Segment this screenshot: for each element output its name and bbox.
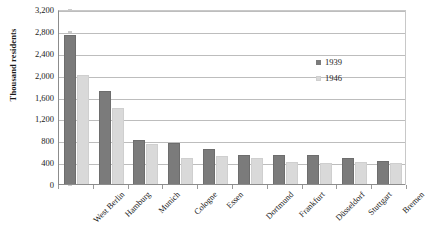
x-axis-category-label: Hamburg (124, 190, 153, 219)
bar (146, 144, 158, 185)
x-axis-tick-mark (93, 185, 94, 189)
x-axis-tick-mark (58, 185, 59, 189)
y-axis-tick-label: 1,200 (14, 115, 54, 124)
x-axis-tick-mark (162, 185, 163, 189)
bar (390, 163, 402, 185)
bar (133, 140, 145, 185)
x-axis-tick-mark (336, 185, 337, 189)
x-axis-category-label: Frankfurt (298, 190, 327, 219)
bar (251, 158, 263, 185)
x-axis-tick-mark (406, 185, 407, 189)
bar (342, 158, 354, 185)
y-axis-tick-label: 2,400 (14, 50, 54, 59)
bar (203, 149, 215, 185)
x-axis-tick-mark (302, 185, 303, 189)
x-axis-category-label: Bremen (401, 190, 426, 215)
bar-group (163, 11, 198, 185)
x-axis-category-label: West Berlin (91, 190, 125, 224)
bar (307, 155, 319, 185)
x-axis-category-label: Dortmund (264, 190, 295, 221)
bar (112, 108, 124, 185)
bar-group (129, 11, 164, 185)
bar (181, 158, 193, 185)
bar (286, 162, 298, 185)
y-axis-tick-label: 0 (14, 181, 54, 190)
legend-swatch-icon-1946 (316, 76, 321, 81)
x-axis-category-label: Cologne (192, 190, 218, 216)
bar-group (372, 11, 407, 185)
x-axis-category-label: Munich (157, 190, 182, 215)
bar (64, 35, 76, 185)
bar-group (337, 11, 372, 185)
y-axis-tick-label: 3,200 (14, 6, 54, 15)
bar (273, 155, 285, 185)
chart-legend: 1939 1946 (316, 54, 386, 86)
y-axis-tick-label: 400 (14, 159, 54, 168)
x-axis-category-label: Essen (225, 190, 245, 210)
legend-item-1939: 1939 (316, 54, 386, 70)
plot-area (58, 10, 406, 185)
x-axis-tick-mark (371, 185, 372, 189)
bar (238, 155, 250, 185)
bar-group (59, 11, 94, 185)
x-axis-category-label: Stuttgart (367, 190, 394, 217)
y-axis-tick-labels: 3,2002,8002,4002,0001,6001,2008004000 (14, 0, 54, 185)
y-axis-tick-label: 1,600 (14, 93, 54, 102)
bar-group (303, 11, 338, 185)
bar-group (233, 11, 268, 185)
bar-group (198, 11, 233, 185)
bar (77, 75, 89, 185)
x-axis-tick-mark (128, 185, 129, 189)
y-axis-tick-label: 800 (14, 137, 54, 146)
y-axis-tick-label: 2,000 (14, 71, 54, 80)
legend-label-1939: 1939 (325, 58, 342, 67)
x-axis-category-labels: West BerlinHamburgMunichCologneEssenDort… (58, 190, 406, 245)
bar (216, 156, 228, 185)
x-axis-tick-mark (267, 185, 268, 189)
bar (355, 162, 367, 185)
x-axis-tick-mark (232, 185, 233, 189)
legend-label-1946: 1946 (325, 74, 342, 83)
bars-layer (59, 11, 405, 185)
bar (99, 91, 111, 185)
legend-item-1946: 1946 (316, 70, 386, 86)
bar (320, 163, 332, 185)
bar (377, 161, 389, 185)
bar-group (268, 11, 303, 185)
x-axis-category-label: Düsseldorf (334, 190, 366, 222)
x-axis-tick-mark (197, 185, 198, 189)
legend-swatch-icon-1939 (316, 60, 321, 65)
bar (168, 143, 180, 185)
bar-group (94, 11, 129, 185)
y-axis-tick-label: 2,800 (14, 28, 54, 37)
